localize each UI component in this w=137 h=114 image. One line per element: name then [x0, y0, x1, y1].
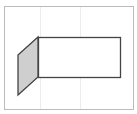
diagram-canvas: [0, 0, 137, 114]
main-rectangle: [39, 38, 121, 78]
